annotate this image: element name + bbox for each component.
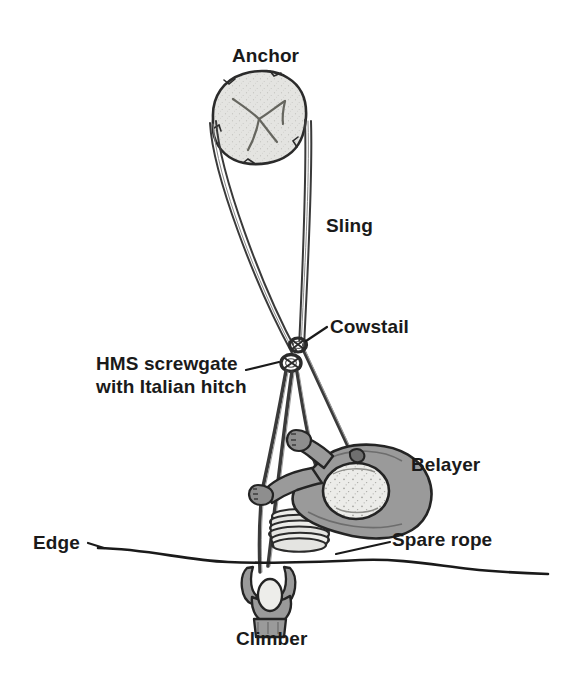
label-hms-line2: with Italian hitch (96, 375, 247, 398)
label-cowstail: Cowstail (330, 315, 409, 338)
anchor-rock (213, 71, 306, 164)
diagram-illustration (0, 0, 563, 673)
climbing-belay-diagram: Anchor Sling Cowstail HMS screwgate with… (0, 0, 563, 673)
belayer-harness-knot (350, 449, 365, 462)
label-sling: Sling (326, 214, 373, 237)
label-anchor: Anchor (232, 44, 299, 67)
label-belayer: Belayer (411, 453, 480, 476)
label-spare-rope: Spare rope (392, 528, 492, 551)
climber-helmet (258, 579, 282, 611)
belayer-right-hand (287, 430, 311, 451)
hms-screwgate-carabiner (281, 355, 301, 372)
label-climber: Climber (236, 627, 307, 650)
belayer-helmet (323, 463, 389, 519)
belayer-left-hand (249, 485, 273, 505)
cliff-edge-line (98, 548, 548, 574)
label-hms-line1: HMS screwgate (96, 352, 247, 375)
label-edge: Edge (33, 531, 80, 554)
label-hms-screwgate: HMS screwgate with Italian hitch (96, 352, 247, 398)
